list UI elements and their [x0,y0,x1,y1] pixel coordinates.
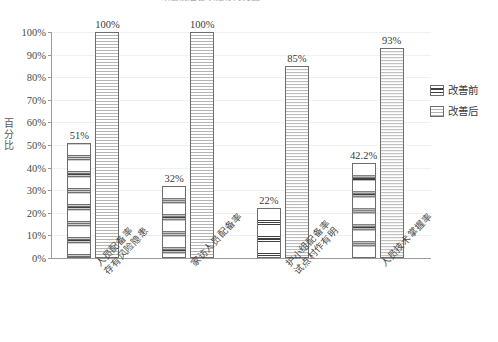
y-axis-tick [48,122,52,123]
bar-value-label: 100% [190,19,215,31]
y-axis-tick-label: 10% [27,230,46,241]
y-axis-tick-label: 50% [27,140,46,151]
y-axis-tick [48,77,52,78]
y-axis-tick-label: 20% [27,207,46,218]
y-axis-tick [48,258,52,259]
y-axis-tick-label: 100% [22,27,47,38]
bar-after[interactable]: 100% [95,32,119,258]
y-axis-tick-label: 70% [27,94,46,105]
y-axis-tick [48,55,52,56]
y-axis-tick [48,168,52,169]
legend-label-before: 改善前 [448,85,478,97]
chart-title: 改善前后各项指标对比图 [60,0,360,1]
y-axis-tick-label: 40% [27,162,46,173]
bar-value-label: 93% [382,35,401,47]
y-axis-title: 百分比 [2,118,16,151]
y-axis-tick-label: 60% [27,117,46,128]
y-axis-tick-label: 0% [32,253,46,264]
y-axis-tick [48,213,52,214]
y-axis-tick [48,235,52,236]
bar-before[interactable]: 42.2% [352,163,376,258]
bar-after[interactable]: 93% [380,48,404,258]
legend-label-after: 改善后 [448,106,478,118]
plot-area: 0%10%20%30%40%50%60%70%80%90%100%51%100%… [51,32,431,259]
bar-after[interactable]: 85% [285,66,309,258]
y-axis-tick [48,190,52,191]
bar-chart: 改善前后各项指标对比图 百分比 0%10%20%30%40%50%60%70%8… [0,0,498,342]
legend-swatch-after-icon [430,106,444,117]
bar-before[interactable]: 32% [162,186,186,258]
y-axis-tick [48,32,52,33]
bar-before[interactable]: 51% [67,143,91,258]
bar-value-label: 32% [165,173,184,185]
y-axis-tick-label: 90% [27,49,46,60]
bar-value-label: 42.2% [350,150,377,162]
bar-before[interactable]: 22% [257,208,281,258]
legend-swatch-before-icon [430,85,444,96]
y-axis-tick-label: 80% [27,72,46,83]
bar-after[interactable]: 100% [190,32,214,258]
bar-value-label: 85% [287,53,306,65]
y-axis-tick-label: 30% [27,185,46,196]
bar-value-label: 22% [259,195,278,207]
legend-item-before[interactable]: 改善前 [430,82,496,99]
bar-value-label: 100% [95,19,120,31]
y-axis-tick [48,145,52,146]
chart-legend: 改善前 改善后 [430,82,496,124]
legend-item-after[interactable]: 改善后 [430,103,496,120]
bar-value-label: 51% [70,130,89,142]
y-axis-tick [48,100,52,101]
